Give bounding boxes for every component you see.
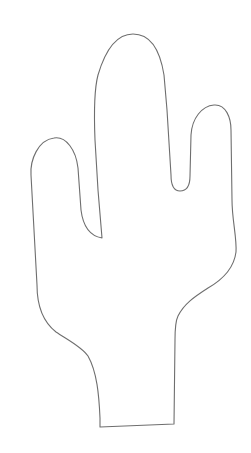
drawing-canvas: Line drawing outline of a saguaro cactus…	[0, 0, 251, 453]
cactus-outline-icon	[0, 0, 251, 453]
cactus-outline-path	[31, 34, 236, 427]
